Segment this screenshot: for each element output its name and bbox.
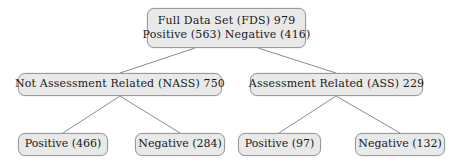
edge-nass-to-positive xyxy=(63,96,120,133)
node-nass-negative-label: Negative (284) xyxy=(138,137,221,151)
node-not-assessment-related-label: Not Assessment Related (NASS) 750 xyxy=(15,77,225,91)
node-full-data-set-line2: Positive (563) Negative (416) xyxy=(143,28,311,42)
node-not-assessment-related[interactable]: Not Assessment Related (NASS) 750 xyxy=(18,73,222,96)
node-nass-positive[interactable]: Positive (466) xyxy=(18,133,108,156)
node-nass-positive-label: Positive (466) xyxy=(25,137,101,151)
edge-ass-to-positive xyxy=(279,96,336,133)
node-ass-positive-label: Positive (97) xyxy=(245,137,314,151)
node-ass-negative[interactable]: Negative (132) xyxy=(355,133,445,156)
edge-root-to-ass xyxy=(258,48,336,73)
edge-root-to-nass xyxy=(120,48,195,73)
edge-nass-to-negative xyxy=(120,96,180,133)
node-ass-negative-label: Negative (132) xyxy=(358,137,441,151)
node-assessment-related[interactable]: Assessment Related (ASS) 229 xyxy=(250,73,423,96)
tree-diagram: Full Data Set (FDS) 979 Positive (563) N… xyxy=(0,0,451,165)
edge-ass-to-negative xyxy=(336,96,400,133)
node-ass-positive[interactable]: Positive (97) xyxy=(238,133,321,156)
node-nass-negative[interactable]: Negative (284) xyxy=(135,133,225,156)
node-full-data-set-line1: Full Data Set (FDS) 979 xyxy=(158,14,296,28)
node-full-data-set[interactable]: Full Data Set (FDS) 979 Positive (563) N… xyxy=(147,8,306,48)
node-assessment-related-label: Assessment Related (ASS) 229 xyxy=(249,77,424,91)
